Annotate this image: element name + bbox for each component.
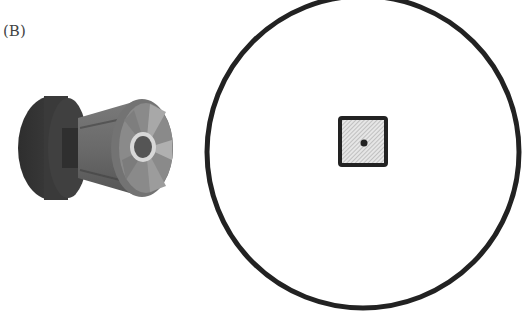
spool-roller	[18, 96, 173, 200]
center-dot	[361, 140, 368, 147]
diagram-canvas	[0, 0, 526, 315]
